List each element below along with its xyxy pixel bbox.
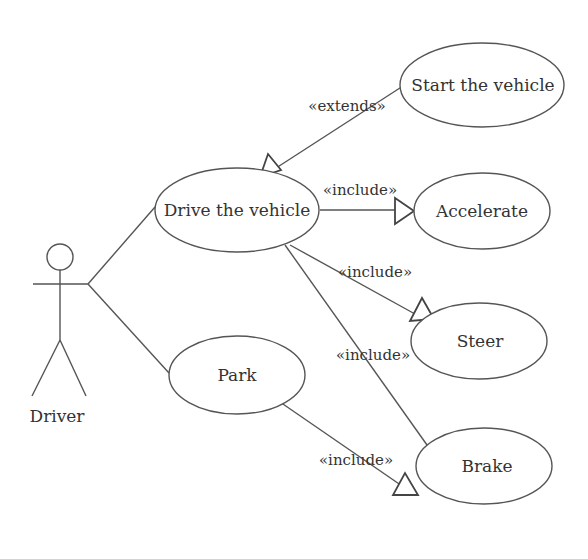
stereotype-include-steer-label: «include» [338, 263, 412, 281]
arrowhead-include-brake-from-park-icon [393, 473, 418, 495]
use-case-label: Steer [457, 331, 505, 351]
use-case-label: Brake [461, 456, 512, 476]
actor-head [47, 244, 73, 270]
use-case-diagram: Driver Start the vehicle Drive the vehic… [0, 0, 588, 559]
association-driver-drive [88, 207, 155, 284]
stereotype-include-brake-from-park-label: «include» [319, 451, 393, 469]
arrowhead-include-accelerate-icon [395, 198, 414, 224]
use-case-label: Start the vehicle [411, 75, 554, 95]
actor-driver: Driver [30, 244, 88, 426]
use-case-steer: Steer [411, 303, 547, 379]
actor-right-leg [60, 340, 86, 396]
actor-left-leg [32, 340, 60, 396]
use-case-label: Park [217, 365, 257, 385]
include-line-park-brake [280, 402, 405, 488]
actor-label: Driver [30, 406, 86, 426]
stereotype-include-accelerate-label: «include» [323, 181, 397, 199]
use-case-accelerate: Accelerate [414, 173, 550, 249]
use-case-brake: Brake [416, 428, 552, 504]
association-driver-park [88, 284, 169, 373]
use-case-drive-the-vehicle: Drive the vehicle [155, 168, 319, 252]
use-case-label: Drive the vehicle [164, 200, 311, 220]
stereotype-extends-label: «extends» [308, 97, 386, 115]
stereotype-include-brake-from-drive-label: «include» [336, 346, 410, 364]
use-case-park: Park [169, 336, 305, 414]
use-case-label: Accelerate [435, 201, 528, 221]
use-case-start-the-vehicle: Start the vehicle [400, 43, 564, 127]
